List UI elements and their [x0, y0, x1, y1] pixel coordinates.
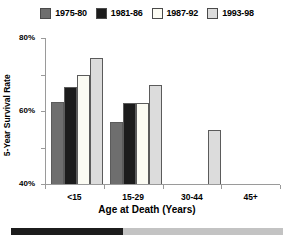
bar [64, 87, 77, 184]
chart-legend: 1975-80 1981-86 1987-92 1993-98 [0, 8, 294, 19]
bar [123, 103, 136, 184]
legend-swatch-icon [152, 8, 163, 19]
x-tick-mark [104, 185, 105, 189]
legend-swatch-icon [96, 8, 107, 19]
y-tick-mark: 60% [41, 75, 45, 76]
footer-progress-fill [11, 228, 123, 235]
legend-label: 1987-92 [167, 9, 199, 18]
bar-group [110, 38, 162, 184]
x-tick-mark [221, 185, 222, 189]
bar-group [51, 38, 103, 184]
legend-label: 1981-86 [111, 9, 143, 18]
legend-swatch-icon [207, 8, 218, 19]
footer-progress-track[interactable] [11, 228, 283, 235]
bar [136, 103, 149, 184]
bar-group [169, 38, 221, 184]
bar [110, 122, 123, 184]
legend-item-1981-86: 1981-86 [96, 8, 143, 19]
bar-group [227, 38, 279, 184]
y-tick-label: 80% [19, 34, 35, 42]
bar [51, 102, 64, 184]
plot-area: 020%40%60%80% <1515-2930-4445+ [45, 38, 280, 185]
bar [208, 130, 221, 184]
bar [90, 58, 103, 184]
bar [149, 85, 162, 184]
y-axis-title-text: 5-Year Survival Rate [3, 74, 12, 156]
legend-swatch-icon [40, 8, 51, 19]
y-axis-title: 5-Year Survival Rate [1, 50, 13, 180]
x-tick-label: 15-29 [122, 193, 144, 202]
x-tick-label: <15 [67, 193, 81, 202]
y-tick-mark: 40% [41, 111, 45, 112]
legend-item-1975-80: 1975-80 [40, 8, 87, 19]
y-tick-mark: 20% [41, 148, 45, 149]
x-axis-title: Age at Death (Years) [0, 205, 294, 215]
legend-item-1993-98: 1993-98 [207, 8, 254, 19]
y-tick-label: 40% [19, 180, 35, 188]
x-tick-mark [280, 185, 281, 189]
bar [77, 75, 90, 184]
y-tick-mark: 80% [41, 38, 45, 39]
x-tick-mark [45, 185, 46, 189]
bar-chart-figure: 1975-80 1981-86 1987-92 1993-98 5-Year S… [0, 0, 294, 237]
legend-label: 1993-98 [222, 9, 254, 18]
y-axis-line [45, 38, 46, 185]
legend-label: 1975-80 [55, 9, 87, 18]
y-tick-label: 60% [19, 107, 35, 115]
x-tick-mark [163, 185, 164, 189]
legend-item-1987-92: 1987-92 [152, 8, 199, 19]
x-tick-label: 45+ [243, 193, 257, 202]
x-tick-label: 30-44 [181, 193, 203, 202]
